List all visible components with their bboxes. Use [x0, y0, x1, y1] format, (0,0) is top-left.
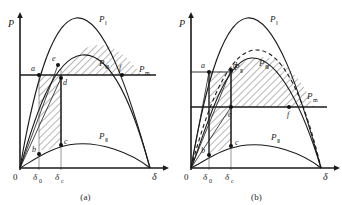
point-label-a-a: a [31, 64, 35, 73]
label-p1-sub-a: Ⅰ [105, 20, 107, 26]
point-b-a [37, 152, 41, 156]
point-label-e-b: e [228, 110, 232, 119]
panel-b-plot: P δ 0 δ 0 δ c P Ⅰ P Ⅱ P Ⅲ [171, 0, 342, 205]
tick-delta0-text-b: δ [203, 172, 208, 182]
point-label-b-b: b [201, 146, 205, 155]
origin-label-b: 0 [184, 172, 189, 182]
y-axis-label-a: P [7, 18, 14, 29]
point-label-d-a: d [63, 78, 68, 87]
x-axis-label-a: δ [152, 171, 157, 182]
point-c-b [229, 144, 233, 148]
tick-deltac-sub-b: c [231, 178, 234, 184]
label-p3-dashed-sub-b: Ⅲ [265, 64, 269, 70]
point-e-b [229, 105, 233, 109]
label-p2-b: P Ⅱ [270, 132, 280, 144]
panel-b: P δ 0 δ 0 δ c P Ⅰ P Ⅱ P Ⅲ [171, 0, 342, 205]
point-f-b [287, 105, 291, 109]
label-p2-solid-sub-b: Ⅱ [240, 68, 243, 74]
label-pm-text-b: P [306, 91, 313, 101]
label-p1-sub-b: Ⅰ [276, 20, 278, 26]
x-axis-label-b: δ [323, 171, 328, 182]
label-p3-dashed-text-b: P [258, 58, 265, 68]
tick-deltac-b: δ c [225, 172, 234, 184]
tick-deltac-text-a: δ [55, 172, 60, 182]
label-pm-sub-b: m [313, 97, 318, 103]
label-p1-text-a: P [98, 14, 105, 24]
point-label-b-a: b [32, 145, 36, 154]
point-e-a [56, 63, 60, 67]
origin-label-a: 0 [13, 172, 18, 182]
label-p2-sub-b: Ⅱ [277, 138, 280, 144]
point-label-f-b: f [287, 110, 291, 119]
label-p1-text-b: P [269, 14, 276, 24]
point-label-e-a: e [52, 54, 56, 63]
tick-deltac-sub-a: c [61, 178, 64, 184]
y-axis-label-b: P [178, 18, 185, 29]
tick-deltac-a: δ c [55, 172, 64, 184]
label-p1-a: P Ⅰ [98, 14, 107, 26]
label-p1-b: P Ⅰ [269, 14, 278, 26]
label-pm-a: P m [138, 64, 150, 76]
point-c-a [59, 143, 63, 147]
point-a-a [37, 73, 41, 77]
label-p3-text-a: P [98, 58, 105, 68]
label-p2-text-a: P [98, 131, 105, 141]
label-p2-text-b: P [270, 132, 277, 142]
label-p2-sub-a: Ⅱ [105, 137, 108, 143]
tick-delta0-text-a: δ [33, 172, 38, 182]
point-b-b [207, 153, 211, 157]
panel-a-plot: P δ 0 δ 0 δ c P Ⅰ P Ⅲ P Ⅱ [0, 0, 171, 205]
point-label-c-b: c [235, 138, 239, 147]
panel-b-caption: (b) [171, 192, 342, 202]
point-label-a-b: a [201, 61, 205, 70]
tick-delta0-b: δ 0 [203, 172, 212, 184]
panel-a: P δ 0 δ 0 δ c P Ⅰ P Ⅲ P Ⅱ [0, 0, 171, 205]
point-a-b [207, 70, 211, 74]
decelerating-area-b [231, 57, 314, 107]
tick-deltac-text-b: δ [225, 172, 230, 182]
tick-delta0-sub-a: 0 [39, 178, 42, 184]
label-p3-sub-a: Ⅲ [105, 64, 109, 70]
panel-a-caption: (a) [0, 192, 171, 202]
label-p2-a: P Ⅱ [98, 131, 108, 143]
label-pm-sub-a: m [145, 70, 150, 76]
point-label-c-a: c [64, 137, 68, 146]
point-f-a [120, 73, 124, 77]
figure-root: P δ 0 δ 0 δ c P Ⅰ P Ⅲ P Ⅱ [0, 0, 342, 205]
label-pm-text-a: P [138, 64, 145, 74]
label-pm-b: P m [306, 91, 318, 103]
tick-delta0-a: δ 0 [33, 172, 42, 184]
tick-delta0-sub-b: 0 [209, 178, 212, 184]
